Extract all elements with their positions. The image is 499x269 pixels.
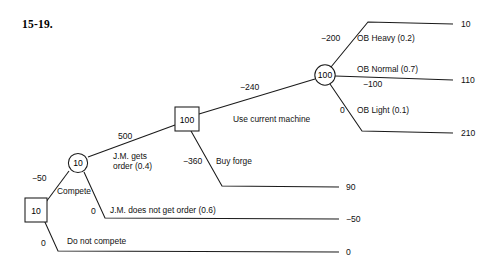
edge-buy-forge bbox=[191, 131, 339, 187]
node-compete-chance[interactable]: 10 bbox=[68, 153, 87, 172]
tree-edges bbox=[44, 22, 453, 252]
terminal-jm-no-order-value: −50 bbox=[346, 214, 361, 225]
payoff-jm-no-order: 0 bbox=[91, 206, 96, 217]
edge-ob-heavy bbox=[331, 22, 453, 67]
branch-label-jm-no-order: J.M. does not get order (0.6) bbox=[110, 205, 216, 216]
terminal-ob-light-value: 210 bbox=[461, 128, 475, 139]
payoff-compete: −50 bbox=[32, 173, 47, 184]
payoff-ob-light: 0 bbox=[340, 105, 345, 116]
edge-ob-normal bbox=[335, 76, 453, 80]
terminal-do-not-compete-value: 0 bbox=[346, 247, 351, 258]
payoff-buy-forge: −360 bbox=[183, 156, 202, 167]
node-root-value: 10 bbox=[31, 206, 41, 216]
terminal-ob-normal-value: 110 bbox=[461, 75, 475, 86]
terminal-buy-forge-value: 90 bbox=[346, 182, 356, 193]
branch-label-ob-heavy: OB Heavy (0.2) bbox=[357, 33, 415, 44]
branch-label-ob-light: OB Light (0.1) bbox=[357, 105, 409, 116]
payoff-use-current-machine: −240 bbox=[240, 82, 259, 93]
branch-label-compete: Compete bbox=[57, 186, 91, 197]
tree-nodes: 10 10 100 100 bbox=[25, 65, 335, 222]
payoff-do-not-compete: 0 bbox=[41, 238, 46, 249]
terminal-ob-heavy-value: 10 bbox=[461, 19, 471, 30]
node-ob-chance-value: 100 bbox=[318, 70, 333, 80]
decision-tree-canvas: 10 10 100 100 bbox=[0, 0, 499, 269]
branch-label-do-not-compete: Do not compete bbox=[67, 236, 126, 247]
branch-label-jm-gets-order-line2: order (0.4) bbox=[113, 161, 152, 172]
node-compete-chance-value: 10 bbox=[73, 158, 83, 168]
branch-label-ob-normal: OB Normal (0.7) bbox=[357, 64, 418, 75]
branch-label-buy-forge: Buy forge bbox=[216, 156, 252, 167]
branch-label-jm-gets-order-line1: J.M. gets bbox=[113, 151, 147, 162]
node-ob-chance[interactable]: 100 bbox=[315, 65, 335, 85]
payoff-ob-normal: −100 bbox=[363, 79, 382, 90]
node-root-decision[interactable]: 10 bbox=[25, 198, 47, 222]
branch-label-use-current-machine: Use current machine bbox=[233, 114, 310, 125]
node-machine-decision-value: 100 bbox=[180, 115, 195, 125]
payoff-jm-gets-order: 500 bbox=[118, 131, 132, 142]
payoff-ob-heavy: −200 bbox=[321, 33, 340, 44]
node-machine-decision[interactable]: 100 bbox=[175, 107, 199, 131]
